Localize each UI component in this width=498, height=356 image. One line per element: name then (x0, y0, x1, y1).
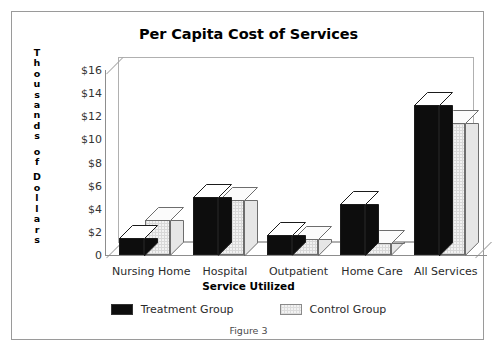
legend-item-control[interactable]: Control Group (280, 303, 387, 316)
bar-side-face (439, 105, 452, 255)
bar-front-face (193, 197, 218, 255)
legend-label: Control Group (310, 303, 387, 316)
bar-top-face (340, 191, 365, 204)
bar-treatment-group-outpatient (267, 235, 292, 255)
legend-item-treatment[interactable]: Treatment Group (111, 303, 234, 316)
legend-label: Treatment Group (141, 303, 234, 316)
bar-top-face (267, 222, 292, 235)
bar-top-face (414, 92, 439, 105)
x-axis-title: Service Utilized (12, 280, 485, 292)
bar-front-face (119, 238, 144, 255)
plot-area: 0$2$4$6$8$10$12$14$16 (70, 52, 480, 267)
bar-side-face (244, 200, 257, 256)
bar-side-face (170, 220, 183, 255)
bar-front-face (267, 235, 292, 255)
bar-treatment-group-nursing-home (119, 238, 144, 255)
bars-layer (70, 52, 480, 267)
figure-frame: Per Capita Cost of Services ThousandsofD… (11, 11, 484, 340)
chart-legend: Treatment GroupControl Group (12, 303, 485, 316)
bar-side-face (292, 235, 305, 255)
bar-treatment-group-all-services (414, 105, 439, 255)
bar-side-face (144, 238, 157, 255)
bar-side-face (218, 197, 231, 255)
legend-swatch-control (280, 304, 302, 315)
chart-title: Per Capita Cost of Services (12, 26, 485, 42)
bar-top-face (119, 225, 144, 238)
bar-top-face (145, 207, 170, 220)
bar-treatment-group-hospital (193, 197, 218, 255)
bar-front-face (340, 204, 365, 255)
bar-top-face (193, 184, 218, 197)
bar-front-face (414, 105, 439, 255)
bar-side-face (465, 123, 478, 255)
bar-side-face (365, 204, 378, 255)
bar-treatment-group-home-care (340, 204, 365, 255)
bar-side-face (318, 239, 331, 255)
legend-swatch-treatment (111, 304, 133, 315)
figure-caption: Figure 3 (12, 325, 485, 336)
